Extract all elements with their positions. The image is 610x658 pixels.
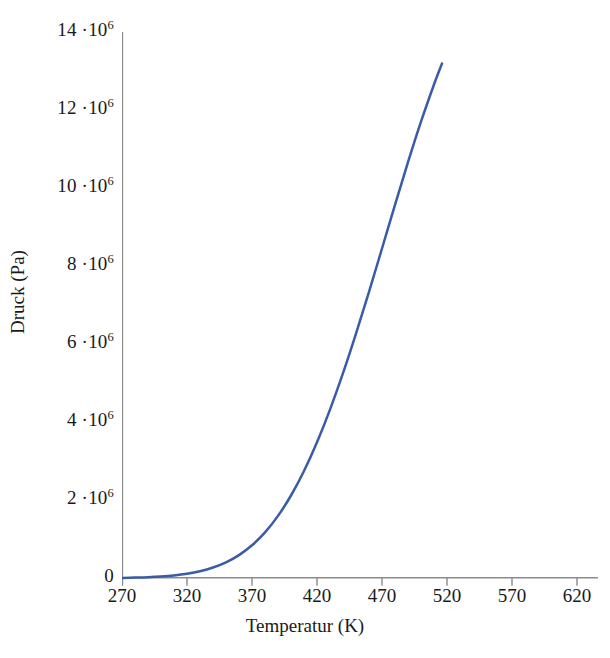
- plot-area: [122, 32, 598, 578]
- chart-figure: 0 2 ·106 4 ·106 6 ·106 8 ·106 10 ·106 12…: [0, 0, 610, 658]
- y-tick-label: 10 ·106: [57, 176, 114, 195]
- y-tick-exponent: 6: [108, 486, 114, 500]
- data-series-line: [122, 64, 442, 578]
- y-tick-label: 2 ·106: [67, 488, 114, 507]
- x-tick-label: 620: [537, 585, 610, 607]
- y-tick-exponent: 6: [108, 96, 114, 110]
- y-tick-exponent: 6: [108, 330, 114, 344]
- y-tick-exponent: 6: [108, 18, 114, 32]
- plot-svg: [122, 32, 610, 592]
- y-tick-label: 4 ·106: [67, 410, 114, 429]
- x-axis-tick-labels: 270 320 370 420 470 520 570 620: [0, 585, 610, 613]
- y-tick-label: 0: [104, 566, 114, 585]
- y-tick-exponent: 6: [108, 174, 114, 188]
- y-tick-label: 8 ·106: [67, 254, 114, 273]
- y-tick-label: 12 ·106: [57, 98, 114, 117]
- y-tick-exponent: 6: [108, 252, 114, 266]
- y-axis-title: Druck (Pa): [6, 212, 30, 372]
- y-tick-label: 6 ·106: [67, 332, 114, 351]
- x-axis-title: Temperatur (K): [0, 614, 610, 638]
- y-tick-exponent: 6: [108, 408, 114, 422]
- y-tick-label: 14 ·106: [57, 20, 114, 39]
